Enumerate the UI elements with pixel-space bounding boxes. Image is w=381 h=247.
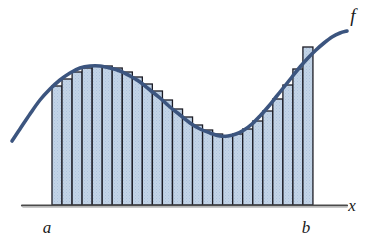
riemann-rectangle — [122, 72, 132, 205]
riemann-rectangle — [142, 84, 152, 205]
riemann-rectangle — [283, 85, 293, 205]
riemann-rectangle — [193, 125, 203, 205]
function-label: f — [350, 5, 358, 26]
lower-limit-label-a: a — [43, 218, 52, 237]
figure-canvas: f x a b — [0, 0, 381, 247]
riemann-rectangle — [92, 66, 102, 205]
riemann-rectangle — [203, 130, 213, 205]
riemann-rectangle — [303, 47, 313, 205]
riemann-rectangle — [52, 86, 62, 205]
riemann-rectangle — [253, 121, 263, 205]
x-axis-label: x — [347, 196, 356, 215]
riemann-sum-figure: f x a b — [0, 0, 381, 247]
riemann-rectangle — [273, 99, 283, 205]
riemann-rectangle — [263, 111, 273, 205]
x-axis-group — [22, 206, 347, 208]
riemann-rectangle — [62, 79, 72, 205]
riemann-rectangle — [132, 77, 142, 205]
riemann-rectangle — [152, 91, 162, 205]
riemann-rectangle — [223, 136, 233, 205]
riemann-rectangle — [213, 134, 223, 205]
riemann-rectangle — [102, 66, 112, 205]
riemann-rectangle — [233, 134, 243, 205]
riemann-rectangle — [293, 69, 303, 205]
riemann-rectangle — [72, 72, 82, 205]
riemann-rectangles-group — [52, 47, 313, 205]
riemann-rectangle — [112, 68, 122, 205]
riemann-rectangle — [183, 117, 193, 205]
riemann-rectangle — [162, 100, 172, 205]
upper-limit-label-b: b — [302, 218, 311, 237]
riemann-rectangle — [243, 129, 253, 205]
riemann-rectangle — [82, 68, 92, 205]
riemann-rectangle — [173, 109, 183, 205]
